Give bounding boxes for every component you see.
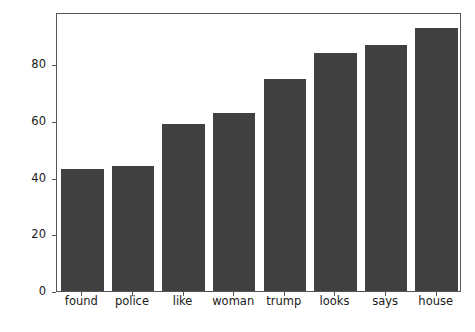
x-tick-mark (233, 292, 234, 296)
x-tick-label: house (410, 296, 461, 308)
bar-chart-figure: 020406080 foundpolicelikewomantrumplooks… (0, 0, 475, 332)
x-tick-mark (81, 292, 82, 296)
x-tick-mark (436, 292, 437, 296)
y-tick-mark (52, 179, 56, 180)
bar (415, 28, 458, 291)
bar (112, 166, 155, 291)
x-tick-label: looks (309, 296, 360, 308)
bar (365, 45, 408, 291)
x-tick-label: police (107, 296, 158, 308)
x-tick-mark (284, 292, 285, 296)
bars-layer (57, 14, 460, 291)
y-tick-label: 0 (39, 286, 46, 298)
plot-area (56, 13, 461, 292)
x-tick-mark (132, 292, 133, 296)
x-tick-mark (334, 292, 335, 296)
bar (213, 113, 256, 291)
y-tick-mark (52, 292, 56, 293)
bar (162, 124, 205, 291)
x-tick-mark (183, 292, 184, 296)
x-tick-label: trump (259, 296, 310, 308)
y-tick-label: 40 (31, 173, 46, 185)
x-tick-label: says (360, 296, 411, 308)
y-axis-tick-labels: 020406080 (0, 0, 46, 332)
y-tick-label: 20 (31, 230, 46, 242)
x-tick-label: found (56, 296, 107, 308)
y-tick-label: 80 (31, 60, 46, 72)
y-tick-mark (52, 122, 56, 123)
y-tick-mark (52, 235, 56, 236)
x-tick-mark (385, 292, 386, 296)
y-tick-mark (52, 65, 56, 66)
bar (264, 79, 307, 291)
x-tick-label: like (157, 296, 208, 308)
x-tick-label: woman (208, 296, 259, 308)
bar (314, 53, 357, 291)
bar (61, 169, 104, 291)
y-tick-label: 60 (31, 116, 46, 128)
